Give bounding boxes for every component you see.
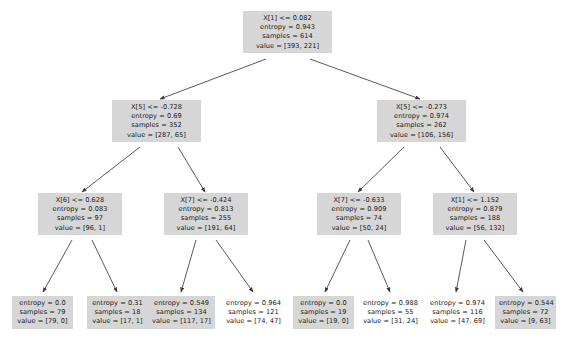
node-value: value = [393, 221] <box>247 42 328 51</box>
node-value: value = [287, 65] <box>116 131 197 140</box>
node-entropy: entropy = 0.879 <box>437 205 513 214</box>
leaf-samples: samples = 72 <box>499 308 552 317</box>
tree-node-left-left-2[interactable]: X[6] <= 0.628 entropy = 0.083 samples = … <box>38 193 122 235</box>
leaf-samples: samples = 18 <box>91 308 144 317</box>
tree-leaf-6[interactable]: entropy = 0.988 samples = 55 value = [31… <box>359 296 422 329</box>
leaf-entropy: entropy = 0.31 <box>91 299 144 308</box>
node-samples: samples = 352 <box>116 121 197 130</box>
node-condition: X[7] <= -0.633 <box>321 196 397 205</box>
tree-leaf-2[interactable]: entropy = 0.31 samples = 18 value = [17,… <box>87 296 148 329</box>
edge-ll2-right <box>92 240 117 292</box>
edge-r1-right <box>440 147 474 192</box>
tree-leaf-3[interactable]: entropy = 0.549 samples = 134 value = [1… <box>148 296 215 329</box>
leaf-value: value = [47, 69] <box>429 317 486 326</box>
leaf-value: value = [9, 63] <box>499 317 552 326</box>
leaf-entropy: entropy = 0.0 <box>297 299 350 308</box>
leaf-samples: samples = 19 <box>297 308 350 317</box>
edge-rr2-left <box>456 240 466 292</box>
edge-rl2-left <box>325 240 350 292</box>
leaf-value: value = [79, 0] <box>16 317 69 326</box>
leaf-samples: samples = 121 <box>225 308 282 317</box>
tree-node-right-right-2[interactable]: X[1] <= 1.152 entropy = 0.879 samples = … <box>433 193 517 235</box>
node-entropy: entropy = 0.909 <box>321 205 397 214</box>
leaf-entropy: entropy = 0.0 <box>16 299 69 308</box>
tree-leaf-8[interactable]: entropy = 0.544 samples = 72 value = [9,… <box>495 296 556 329</box>
node-entropy: entropy = 0.69 <box>116 112 197 121</box>
node-entropy: entropy = 0.974 <box>381 112 462 121</box>
edge-rr2-right <box>484 240 523 292</box>
node-samples: samples = 97 <box>42 214 118 223</box>
node-entropy: entropy = 0.813 <box>168 205 244 214</box>
leaf-entropy: entropy = 0.544 <box>499 299 552 308</box>
node-value: value = [191, 64] <box>168 224 244 233</box>
tree-node-right-left-2[interactable]: X[7] <= -0.633 entropy = 0.909 samples =… <box>317 193 401 235</box>
leaf-samples: samples = 55 <box>363 308 418 317</box>
edge-root-left <box>160 59 266 99</box>
tree-node-left-1[interactable]: X[5] <= -0.728 entropy = 0.69 samples = … <box>112 100 201 142</box>
leaf-entropy: entropy = 0.549 <box>152 299 211 308</box>
leaf-value: value = [74, 47] <box>225 317 282 326</box>
leaf-value: value = [31, 24] <box>363 317 418 326</box>
node-samples: samples = 262 <box>381 121 462 130</box>
tree-node-left-right-2[interactable]: X[7] <= -0.424 entropy = 0.813 samples =… <box>164 193 248 235</box>
edge-lr2-right <box>216 240 253 292</box>
edge-rl2-right <box>368 240 390 292</box>
decision-tree-diagram: X[1] <= 0.082 entropy = 0.943 samples = … <box>0 0 566 338</box>
leaf-samples: samples = 116 <box>429 308 486 317</box>
node-value: value = [96, 1] <box>42 224 118 233</box>
node-condition: X[7] <= -0.424 <box>168 196 244 205</box>
leaf-entropy: entropy = 0.988 <box>363 299 418 308</box>
tree-node-root[interactable]: X[1] <= 0.082 entropy = 0.943 samples = … <box>243 11 332 53</box>
tree-leaf-4[interactable]: entropy = 0.964 samples = 121 value = [7… <box>221 296 286 329</box>
edge-l1-left <box>82 147 140 192</box>
edge-l1-right <box>178 147 205 192</box>
leaf-samples: samples = 79 <box>16 308 69 317</box>
node-condition: X[5] <= -0.273 <box>381 103 462 112</box>
node-samples: samples = 614 <box>247 32 328 41</box>
leaf-value: value = [17, 1] <box>91 317 144 326</box>
node-value: value = [50, 24] <box>321 224 397 233</box>
node-condition: X[5] <= -0.728 <box>116 103 197 112</box>
node-entropy: entropy = 0.943 <box>247 23 328 32</box>
tree-leaf-1[interactable]: entropy = 0.0 samples = 79 value = [79, … <box>12 296 73 329</box>
leaf-value: value = [19, 0] <box>297 317 350 326</box>
tree-node-right-1[interactable]: X[5] <= -0.273 entropy = 0.974 samples =… <box>377 100 466 142</box>
node-samples: samples = 188 <box>437 214 513 223</box>
leaf-samples: samples = 134 <box>152 308 211 317</box>
edge-lr2-left <box>181 240 196 292</box>
edge-root-right <box>310 59 420 99</box>
node-value: value = [106, 156] <box>381 131 462 140</box>
node-condition: X[6] <= 0.628 <box>42 196 118 205</box>
edge-r1-left <box>358 147 404 192</box>
edge-ll2-left <box>43 240 72 292</box>
node-value: value = [56, 132] <box>437 224 513 233</box>
leaf-entropy: entropy = 0.974 <box>429 299 486 308</box>
leaf-value: value = [117, 17] <box>152 317 211 326</box>
node-samples: samples = 255 <box>168 214 244 223</box>
node-condition: X[1] <= 0.082 <box>247 14 328 23</box>
node-entropy: entropy = 0.083 <box>42 205 118 214</box>
node-samples: samples = 74 <box>321 214 397 223</box>
tree-leaf-7[interactable]: entropy = 0.974 samples = 116 value = [4… <box>425 296 490 329</box>
leaf-entropy: entropy = 0.964 <box>225 299 282 308</box>
node-condition: X[1] <= 1.152 <box>437 196 513 205</box>
tree-leaf-5[interactable]: entropy = 0.0 samples = 19 value = [19, … <box>293 296 354 329</box>
